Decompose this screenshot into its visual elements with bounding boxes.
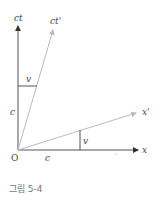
spacetime-diagram: ct ct' x x' O c c v v xyxy=(0,0,162,203)
figure-caption: 그림 5-4 xyxy=(9,182,43,195)
ct-prime-axis xyxy=(18,30,53,150)
c-vertical-label: c xyxy=(10,107,15,117)
x-axis-label: x xyxy=(142,145,147,155)
v-bottom-label: v xyxy=(83,136,88,146)
ct-prime-axis-label: ct' xyxy=(50,16,61,26)
x-prime-axis-label: x' xyxy=(142,107,150,117)
v-top-label: v xyxy=(26,74,31,84)
origin-label: O xyxy=(11,153,18,163)
c-horizontal-label: c xyxy=(45,153,50,163)
ct-axis-label: ct xyxy=(14,13,23,23)
x-prime-axis xyxy=(18,113,136,150)
